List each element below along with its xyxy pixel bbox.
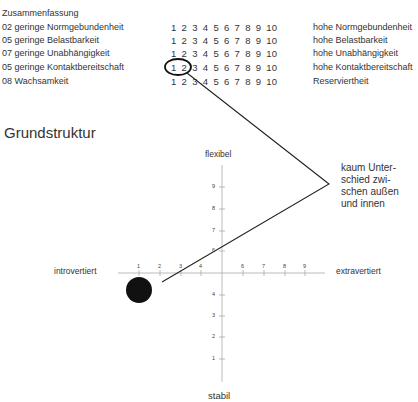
- data-point: [126, 277, 152, 303]
- y-tick-label: 8: [212, 205, 215, 211]
- x-tick-label: 8: [283, 263, 286, 269]
- x-tick-label: 9: [303, 263, 306, 269]
- x-tick-label: 3: [179, 263, 182, 269]
- diagram-graphics: [0, 0, 418, 402]
- x-tick-label: 1: [137, 263, 140, 269]
- y-tick-label: 1: [212, 355, 215, 361]
- y-tick-label: 3: [212, 312, 215, 318]
- x-tick-label: 6: [241, 263, 244, 269]
- x-tick-label: 4: [199, 263, 202, 269]
- y-tick-label: 4: [212, 291, 215, 297]
- y-tick-label: 2: [212, 333, 215, 339]
- highlight-circle: [165, 59, 191, 75]
- y-tick-label: 9: [212, 183, 215, 189]
- x-tick-label: 7: [262, 263, 265, 269]
- x-tick-label: 2: [158, 263, 161, 269]
- connector-line: [162, 73, 329, 282]
- y-tick-label: 6: [212, 247, 215, 253]
- y-tick-label: 7: [212, 227, 215, 233]
